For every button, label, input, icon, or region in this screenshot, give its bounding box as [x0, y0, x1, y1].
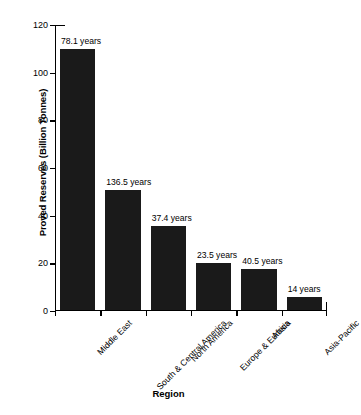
- y-tick-label: 40: [38, 211, 48, 221]
- bar-value-label: 136.5 years: [106, 177, 151, 187]
- x-tick-mark: [236, 311, 237, 316]
- y-tick-label: 120: [33, 20, 48, 30]
- x-tick-mark: [100, 311, 101, 316]
- y-tick-label: 80: [38, 115, 48, 125]
- plot-area: 020406080100120 78.1 years136.5 years37.…: [55, 25, 327, 311]
- bar-value-label: 78.1 years: [61, 36, 101, 46]
- x-tick-mark: [55, 311, 56, 316]
- x-tick-mark: [326, 311, 327, 316]
- y-tick-mark: [50, 73, 55, 74]
- bar-value-label: 37.4 years: [152, 213, 192, 223]
- y-tick-mark: [50, 120, 55, 121]
- bar-value-label: 14 years: [288, 284, 321, 294]
- y-tick-mark: [50, 168, 55, 169]
- y-axis-line: [55, 25, 56, 311]
- bar: [105, 190, 140, 309]
- x-tick-mark: [282, 311, 283, 316]
- x-category-label: Asia-Pacific: [322, 318, 361, 357]
- y-tick-mark: [50, 263, 55, 264]
- bar-value-label: 40.5 years: [242, 256, 282, 266]
- y-tick-label: 60: [38, 163, 48, 173]
- y-tick-mark: [50, 216, 55, 217]
- bar-value-label: 23.5 years: [197, 250, 237, 260]
- x-tick-mark: [146, 311, 147, 316]
- y-tick-mark: [50, 25, 55, 26]
- x-tick-mark: [191, 311, 192, 316]
- x-category-label: Africa: [270, 318, 293, 341]
- bar: [241, 269, 276, 310]
- frame-right-stub: [326, 302, 327, 311]
- y-tick-label: 0: [43, 306, 48, 316]
- y-tick-label: 20: [38, 258, 48, 268]
- bar: [60, 49, 95, 310]
- bar: [196, 263, 231, 310]
- bar: [151, 226, 186, 309]
- x-category-label: North America: [189, 318, 235, 364]
- frame-top-stub: [55, 25, 65, 26]
- y-tick-label: 100: [33, 68, 48, 78]
- x-category-label: Middle East: [95, 318, 134, 357]
- bar: [287, 297, 322, 310]
- x-axis-title: Region: [0, 388, 337, 399]
